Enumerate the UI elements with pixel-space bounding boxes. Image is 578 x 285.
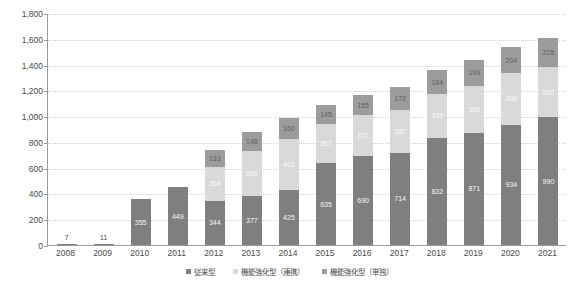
bar-segment[interactable]: 990 [538, 117, 558, 245]
y-axis-tick-label: 800 [0, 139, 43, 148]
bar-segment[interactable]: 307 [316, 124, 336, 164]
bar-value-label: 133 [209, 155, 221, 162]
bar-value-label: 990 [543, 178, 555, 185]
bar-segment[interactable]: 160 [279, 118, 299, 139]
bar-value-label: 160 [283, 125, 295, 132]
legend-label: 機能強化型（単独） [330, 266, 393, 277]
bar-segment[interactable]: 690 [353, 156, 373, 245]
bar-segment[interactable]: 344 [205, 201, 225, 245]
x-axis-tick-label: 2009 [84, 249, 121, 258]
bar-group[interactable]: 77 [57, 244, 77, 245]
x-axis-tick-label: 2017 [381, 249, 418, 258]
bar-group[interactable]: 871366196 [464, 60, 484, 245]
y-axis-tick [44, 246, 48, 247]
bar-value-label: 690 [357, 197, 369, 204]
bar-segment[interactable]: 337 [390, 110, 410, 153]
legend-label: 従来型 [194, 266, 215, 277]
bar-segment[interactable]: 934 [501, 125, 521, 245]
bar-value-label: 377 [246, 217, 258, 224]
bar-segment[interactable]: 133 [205, 150, 225, 167]
bar-segment[interactable]: 196 [464, 60, 484, 85]
y-axis-tick-label: 1,800 [0, 10, 43, 19]
bar-value-label: 172 [394, 95, 406, 102]
x-axis-tick-label: 2010 [121, 249, 158, 258]
bar-group[interactable]: 1111 [94, 244, 114, 245]
bar-value-label: 184 [431, 79, 443, 86]
bar-value-label: 401 [283, 161, 295, 168]
bar-segment[interactable]: 264 [205, 167, 225, 201]
bar-value-label: 264 [209, 180, 221, 187]
legend-label: 機能強化型（連携） [241, 266, 304, 277]
bar-segment[interactable]: 148 [242, 132, 262, 151]
bar-group[interactable]: 714337172 [390, 87, 410, 245]
y-axis-tick-label: 1,200 [0, 87, 43, 96]
legend-item[interactable]: 機能強化型（単独） [322, 266, 393, 277]
bar-value-label: 339 [431, 112, 443, 119]
bar-value-label: 204 [506, 57, 518, 64]
bar-segment[interactable]: 377 [242, 196, 262, 245]
bar-segment[interactable]: 204 [501, 47, 521, 73]
bar-value-label: 449 [172, 213, 184, 220]
bar-value-label: 337 [394, 128, 406, 135]
bar-segment[interactable]: 350 [242, 151, 262, 196]
y-axis-tick-label: 200 [0, 216, 43, 225]
bar-group[interactable]: 635307145 [316, 105, 336, 245]
bar-segment[interactable]: 871 [464, 133, 484, 245]
x-axis-tick-label: 2018 [418, 249, 455, 258]
bar-segment[interactable]: 339 [427, 94, 447, 138]
bar-group[interactable]: 832339184 [427, 70, 447, 245]
bar-segment[interactable]: 832 [427, 138, 447, 245]
bar-segment[interactable]: 145 [316, 105, 336, 124]
bar-segment[interactable]: 7 [57, 244, 77, 245]
bar-total-label: 7 [64, 233, 68, 242]
x-axis-tick-labels: 2008200920102011201220132014201520162017… [47, 249, 566, 263]
bar-value-label: 366 [468, 106, 480, 113]
bar-segment[interactable]: 366 [464, 86, 484, 133]
bar-segment[interactable]: 225 [538, 38, 558, 67]
bar-value-label: 145 [320, 111, 332, 118]
chart-legend: 従来型機能強化型（連携）機能強化型（単独） [0, 266, 578, 277]
bar-segment[interactable]: 155 [353, 95, 373, 115]
bar-value-label: 225 [543, 49, 555, 56]
bar-group[interactable]: 425401160 [279, 118, 299, 245]
x-axis-tick-label: 2020 [492, 249, 529, 258]
bar-value-label: 934 [506, 181, 518, 188]
bar-segment[interactable]: 401 [279, 139, 299, 191]
y-axis-tick-label: 0 [0, 242, 43, 251]
bar-segment[interactable]: 11 [94, 244, 114, 245]
bar-value-label: 350 [246, 170, 258, 177]
bar-value-label: 344 [209, 219, 221, 226]
bar-segment[interactable]: 714 [390, 153, 410, 245]
x-axis-tick-label: 2019 [455, 249, 492, 258]
y-axis-tick-label: 600 [0, 165, 43, 174]
x-axis-tick-label: 2013 [232, 249, 269, 258]
legend-swatch-icon [322, 269, 327, 274]
legend-item[interactable]: 機能強化型（連携） [233, 266, 304, 277]
bar-segment[interactable]: 392 [538, 67, 558, 118]
bar-segment[interactable]: 398 [501, 73, 521, 124]
bar-group[interactable]: 690317155 [353, 95, 373, 245]
bar-segment[interactable]: 184 [427, 70, 447, 94]
bar-group[interactable]: 990392225 [538, 38, 558, 245]
bar-segment[interactable]: 635 [316, 163, 336, 245]
bar-value-label: 871 [468, 185, 480, 192]
bar-group[interactable]: 355 [131, 199, 151, 245]
y-axis-tick-labels: 02004006008001,0001,2001,4001,6001,800 [0, 14, 43, 246]
bar-group[interactable]: 449 [168, 187, 188, 245]
bar-segment[interactable]: 449 [168, 187, 188, 245]
bar-segment[interactable]: 317 [353, 115, 373, 156]
stacked-bar-chart: 02004006008001,0001,2001,4001,6001,800 7… [0, 0, 578, 285]
bar-value-label: 425 [283, 214, 295, 221]
bar-segment[interactable]: 172 [390, 87, 410, 109]
y-axis-tick-label: 1,000 [0, 113, 43, 122]
bar-segment[interactable]: 355 [131, 199, 151, 245]
bar-group[interactable]: 377350148 [242, 132, 262, 245]
bar-group[interactable]: 344264133 [205, 150, 225, 245]
bar-group[interactable]: 934398204 [501, 47, 521, 245]
bar-series-container: 7711113554493442641333773501484254011606… [48, 14, 566, 245]
bar-segment[interactable]: 425 [279, 190, 299, 245]
y-axis-tick-label: 400 [0, 190, 43, 199]
x-axis-tick-label: 2015 [307, 249, 344, 258]
legend-item[interactable]: 従来型 [186, 266, 215, 277]
bar-value-label: 392 [543, 89, 555, 96]
